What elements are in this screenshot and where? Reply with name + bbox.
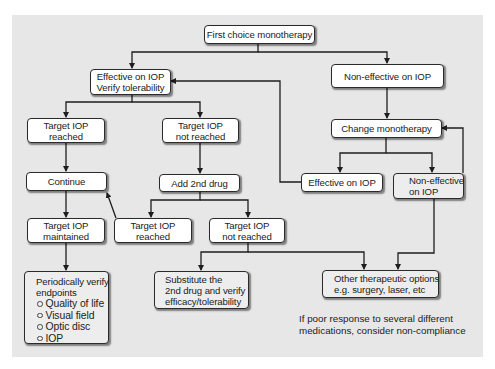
node-label: endpoints xyxy=(36,287,77,298)
edge-noneffective-right-to-change xyxy=(442,128,463,173)
edge-change-to-noneffective xyxy=(386,153,432,172)
node-label: Target IOP xyxy=(44,220,89,231)
circle-bullet-icon xyxy=(37,324,43,330)
node-substitute-2nd-drug: Substitute the 2nd drug and verify effic… xyxy=(154,271,249,309)
node-label: Target IOP xyxy=(178,120,223,131)
node-label: on IOP xyxy=(409,186,438,197)
note-line: If poor response to several different xyxy=(299,313,466,325)
edge-add-drug-to-target-not-reached xyxy=(200,200,248,217)
node-label: e.g. surgery, laser, etc xyxy=(334,284,425,295)
node-label: 2nd drug and verify xyxy=(165,285,245,296)
node-effective-on-iop-right: Effective on IOP xyxy=(301,173,383,192)
node-label: efficacy/tolerability xyxy=(165,296,241,307)
node-effective-verify-tolerability: Effective on IOP Verify tolerability xyxy=(90,69,171,95)
node-other-therapeutic-options: Other therapeutic options e.g. surgery, … xyxy=(322,270,439,298)
node-label: Change monotherapy xyxy=(341,123,431,134)
node-change-monotherapy: Change monotherapy xyxy=(331,119,442,138)
node-label: Non-effective xyxy=(409,175,464,186)
node-target-iop-not-reached-top: Target IOP not reached xyxy=(162,118,239,143)
node-label: Add 2nd drug xyxy=(171,178,227,189)
edge-change-to-effective xyxy=(340,138,386,172)
edge-first-to-noneffective xyxy=(258,52,387,63)
node-label: Target IOP xyxy=(131,220,176,231)
node-target-iop-not-reached-mid: Target IOP not reached xyxy=(209,218,285,243)
edge-not-reached-to-substitute xyxy=(201,243,248,270)
node-label: Substitute the xyxy=(165,274,222,285)
edge-target-reached-to-continue-diag xyxy=(107,193,116,218)
node-label: not reached xyxy=(176,131,226,142)
endpoint-item: Quality of life xyxy=(36,298,104,310)
circle-bullet-icon xyxy=(37,313,43,319)
node-label: maintained xyxy=(43,231,89,242)
node-non-effective-on-iop-top: Non-effective on IOP xyxy=(331,64,444,88)
edge-effective-to-target-not-reached xyxy=(132,102,200,117)
node-periodically-verify-endpoints: Periodically verify endpoints Quality of… xyxy=(24,271,109,344)
endpoint-item: IOP xyxy=(36,333,104,345)
node-add-2nd-drug: Add 2nd drug xyxy=(159,174,240,192)
node-target-iop-reached-left: Target IOP reached xyxy=(27,118,105,143)
node-label: Effective on IOP xyxy=(97,71,165,82)
node-label: Non-effective on IOP xyxy=(344,71,431,82)
note-line: medications, consider non-compliance xyxy=(299,325,466,337)
node-non-effective-on-iop-right: Non-effective on IOP xyxy=(393,173,464,199)
endpoint-list: Quality of life Visual field Optic disc … xyxy=(36,298,104,344)
edge-noneffective-right-to-other xyxy=(398,199,434,269)
node-label: reached xyxy=(49,131,83,142)
node-label: Target IOP xyxy=(225,220,270,231)
node-label: Effective on IOP xyxy=(308,177,376,188)
circle-bullet-icon xyxy=(37,336,43,342)
non-compliance-note: If poor response to several different me… xyxy=(299,313,466,336)
node-label: Periodically verify xyxy=(36,276,109,287)
edge-first-to-effective xyxy=(132,44,258,68)
node-label: Target IOP xyxy=(44,120,89,131)
edge-add-drug-to-target-reached xyxy=(151,192,200,217)
edge-effective-to-target-reached xyxy=(66,95,132,117)
node-label: Other therapeutic options xyxy=(334,273,439,284)
node-first-choice-monotherapy: First choice monotherapy xyxy=(204,25,315,44)
node-label: not reached xyxy=(222,231,272,242)
endpoint-item: Optic disc xyxy=(36,321,104,333)
node-label: First choice monotherapy xyxy=(207,29,312,40)
edge-not-reached-to-other xyxy=(248,252,364,269)
node-label: Continue xyxy=(48,176,86,187)
node-target-iop-maintained: Target IOP maintained xyxy=(27,218,105,243)
circle-bullet-icon xyxy=(37,301,43,307)
endpoint-item: Visual field xyxy=(36,310,104,322)
node-continue: Continue xyxy=(26,172,107,191)
node-target-iop-reached-mid: Target IOP reached xyxy=(114,218,192,243)
node-label: reached xyxy=(136,231,170,242)
node-label: Verify tolerability xyxy=(97,82,165,93)
